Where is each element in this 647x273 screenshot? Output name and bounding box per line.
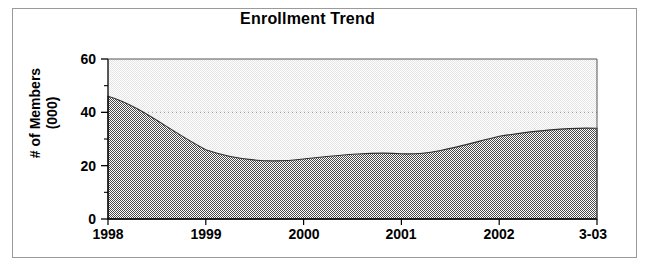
x-axis-tick-label-2002: 2002 [464, 226, 534, 242]
y-axis-tick-label-40: 40 [62, 104, 96, 120]
x-axis-tick-label-1999: 1999 [171, 226, 241, 242]
x-axis-tick-label-1998: 1998 [73, 226, 143, 242]
x-axis-tick-label-2000: 2000 [269, 226, 339, 242]
x-axis-tick-label-3-03: 3-03 [558, 226, 628, 242]
y-axis-title-line2: (000) [44, 33, 61, 193]
y-axis-tick-label-0: 0 [62, 211, 96, 227]
x-axis-tick-label-2001: 2001 [366, 226, 436, 242]
y-axis-tick-label-60: 60 [62, 51, 96, 67]
y-axis-tick-label-20: 20 [62, 158, 96, 174]
chart-plot-area: 60 40 20 0 # of Members (000) 1998 1999 … [0, 0, 647, 273]
y-axis-title: # of Members (000) [27, 33, 61, 193]
y-axis-title-line1: # of Members [27, 33, 44, 193]
